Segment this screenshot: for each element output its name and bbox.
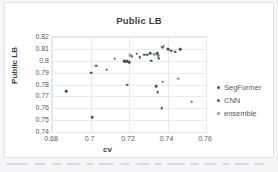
data-point-cnn[interactable] <box>161 80 164 83</box>
gridline-vertical <box>168 37 169 132</box>
plot-area[interactable] <box>51 36 207 133</box>
data-point-segformer[interactable] <box>95 64 98 67</box>
legend-item-label: SegFormer <box>224 83 262 92</box>
y-axis-tick-labels: 0.820.810.80.790.780.770.760.750.74 <box>21 36 49 133</box>
y-axis-tick-label: 0.77 <box>23 92 49 99</box>
y-axis-tick-label: 0.82 <box>23 33 49 40</box>
y-axis-title: Public LB <box>10 41 19 91</box>
gridline-vertical <box>206 37 207 132</box>
data-point-segformer[interactable] <box>149 52 152 55</box>
truncated-text-fragment <box>66 163 80 165</box>
data-point-segformer[interactable] <box>179 48 182 51</box>
data-point-segformer[interactable] <box>135 53 138 56</box>
truncated-text-fragment <box>154 163 162 165</box>
truncated-text-fragment <box>86 163 93 165</box>
legend-item-segformer[interactable]: SegFormer <box>217 81 278 93</box>
y-axis-tick-label: 0.8 <box>23 56 49 63</box>
data-point-cnn[interactable] <box>157 91 160 94</box>
truncated-text-fragment <box>136 163 149 165</box>
legend-item-label: CNN <box>224 96 240 105</box>
data-point-ensemble[interactable] <box>158 54 161 57</box>
data-point-ensemble[interactable] <box>177 78 180 81</box>
data-point-segformer[interactable] <box>113 57 116 60</box>
x-axis-tick-label: 0.7 <box>74 135 106 142</box>
data-point-segformer[interactable] <box>170 49 173 52</box>
truncated-text-fragment <box>6 163 28 165</box>
y-axis-tick-label: 0.74 <box>23 128 49 135</box>
legend-marker-icon <box>217 86 220 89</box>
x-axis-tick-label: 0.74 <box>151 135 183 142</box>
data-point-segformer[interactable] <box>128 61 131 64</box>
y-axis-tick-label: 0.81 <box>23 44 49 51</box>
chart-card[interactable]: Public LB Public LB 0.820.810.80.790.780… <box>4 2 274 158</box>
data-point-segformer[interactable] <box>150 59 153 62</box>
x-axis-tick-label: 0.72 <box>112 135 144 142</box>
truncated-text-fragment <box>120 163 130 165</box>
screenshot-root: Public LB Public LB 0.820.810.80.790.780… <box>0 0 278 172</box>
data-point-segformer[interactable] <box>158 57 161 60</box>
x-axis-title: cv <box>5 145 210 154</box>
data-point-segformer[interactable] <box>138 56 141 59</box>
y-axis-tick-label: 0.78 <box>23 80 49 87</box>
truncated-text-fragment <box>190 163 199 165</box>
gridline-vertical <box>52 37 53 132</box>
data-point-cnn[interactable] <box>190 100 193 103</box>
truncated-text-fragment <box>254 163 264 165</box>
data-point-ensemble[interactable] <box>129 54 132 57</box>
data-point-cnn[interactable] <box>126 83 129 86</box>
truncated-content-below-chart <box>4 160 274 172</box>
gridline-vertical <box>129 37 130 132</box>
data-point-cnn[interactable] <box>160 107 163 110</box>
data-point-ensemble[interactable] <box>153 53 156 56</box>
legend-marker-icon <box>217 99 220 102</box>
data-point-segformer[interactable] <box>106 69 109 72</box>
y-axis-tick-label: 0.75 <box>23 116 49 123</box>
data-point-segformer[interactable] <box>65 90 68 93</box>
legend-item-cnn[interactable]: CNN <box>217 94 278 106</box>
truncated-text-fragment <box>52 163 61 165</box>
data-point-cnn[interactable] <box>155 85 158 88</box>
x-axis-tick-label: 0.68 <box>35 135 67 142</box>
data-point-ensemble[interactable] <box>162 45 165 48</box>
legend-marker-icon <box>217 112 220 115</box>
data-point-segformer[interactable] <box>174 51 177 54</box>
truncated-text-fragment <box>34 163 46 165</box>
truncated-text-fragment <box>222 163 229 165</box>
legend-item-label: ensemble <box>224 109 257 118</box>
chart-legend[interactable]: SegFormerCNNensemble <box>217 81 278 120</box>
truncated-text-fragment <box>167 163 185 165</box>
x-axis-tick-label: 0.76 <box>189 135 221 142</box>
data-point-segformer[interactable] <box>90 71 93 74</box>
data-point-cnn[interactable] <box>91 116 94 119</box>
truncated-text-fragment <box>204 163 216 165</box>
y-axis-tick-label: 0.79 <box>23 68 49 75</box>
truncated-text-fragment <box>234 163 249 165</box>
legend-item-ensemble[interactable]: ensemble <box>217 107 278 119</box>
truncated-text-fragment <box>98 163 114 165</box>
gridline-horizontal <box>52 132 206 133</box>
chart-title: Public LB <box>5 15 273 26</box>
y-axis-tick-label: 0.76 <box>23 104 49 111</box>
